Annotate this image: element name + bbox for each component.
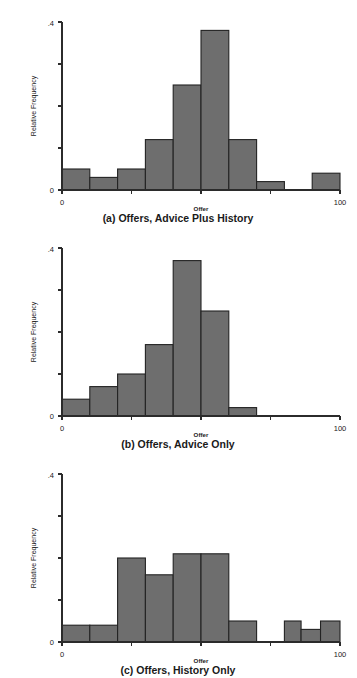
chart-a-plot-area — [58, 22, 340, 194]
histogram-bar — [62, 625, 90, 642]
histogram-bar — [201, 311, 229, 416]
histogram-bar — [90, 177, 118, 190]
chart-b-y-ticks — [58, 248, 62, 416]
chart-c-x-axis-title: Offer — [194, 657, 209, 664]
chart-b-x-tick-label-min: 0 — [60, 424, 64, 433]
chart-a-x-axis-title: Offer — [194, 205, 209, 212]
chart-b-caption: (b) Offers, Advice Only — [121, 438, 235, 450]
chart-a-y-axis-title: Relative Frequency — [30, 75, 38, 136]
histogram-bar — [312, 173, 340, 190]
chart-b-y-axis-title: Relative Frequency — [30, 301, 38, 362]
histogram-bar — [229, 621, 257, 642]
histogram-bar — [229, 408, 257, 416]
chart-c-y-tick-label-max: .4 — [48, 471, 54, 480]
histogram-bar — [201, 30, 229, 190]
chart-c-x-ticks — [62, 642, 340, 646]
histogram-bar — [201, 554, 229, 642]
chart-a-y-tick-label-max: .4 — [48, 19, 54, 28]
histogram-bar — [173, 261, 201, 416]
histogram-bar — [118, 374, 146, 416]
chart-a-bars — [62, 30, 340, 190]
chart-panel-a: 0 .4 0 100 Offer Relative Frequency (a) … — [0, 0, 357, 226]
chart-panel-b: 0 .4 0 100 Offer Relative Frequency (b) … — [0, 226, 357, 452]
chart-a-x-tick-label-max: 100 — [334, 198, 347, 207]
histogram-bar — [118, 169, 146, 190]
chart-c-x-tick-label-max: 100 — [334, 650, 347, 659]
chart-c-y-ticks — [58, 474, 62, 642]
histogram-bar — [257, 182, 285, 190]
chart-b-svg: 0 .4 0 100 Offer Relative Frequency (b) … — [0, 226, 357, 452]
histogram-bar — [90, 625, 118, 642]
chart-c-caption: (c) Offers, History Only — [121, 664, 236, 676]
chart-c-y-tick-label-min: 0 — [50, 638, 54, 647]
histogram-bar — [173, 554, 201, 642]
histogram-bar — [284, 621, 301, 642]
chart-b-y-tick-label-max: .4 — [48, 245, 54, 254]
histogram-bar — [301, 629, 320, 642]
histogram-bar — [321, 621, 340, 642]
chart-a-caption: (a) Offers, Advice Plus History — [103, 212, 254, 224]
chart-b-y-tick-label-min: 0 — [50, 412, 54, 421]
chart-a-y-ticks — [58, 22, 62, 190]
histogram-bar — [173, 85, 201, 190]
histogram-bar — [90, 387, 118, 416]
histogram-bar — [145, 140, 173, 190]
chart-c-y-axis-title: Relative Frequency — [30, 527, 38, 588]
histogram-bar — [118, 558, 146, 642]
chart-b-bars — [62, 261, 257, 416]
histogram-bar — [145, 575, 173, 642]
histogram-bar — [229, 140, 257, 190]
chart-c-x-tick-label-min: 0 — [60, 650, 64, 659]
chart-c-bars — [62, 554, 340, 642]
chart-c-plot-area — [58, 474, 340, 646]
chart-a-y-tick-label-min: 0 — [50, 186, 54, 195]
chart-c-svg: 0 .4 0 100 Offer Relative Frequency (c) … — [0, 452, 357, 678]
chart-panel-c: 0 .4 0 100 Offer Relative Frequency (c) … — [0, 452, 357, 678]
histogram-figure: 0 .4 0 100 Offer Relative Frequency (a) … — [0, 0, 357, 678]
chart-b-x-axis-title: Offer — [194, 431, 209, 438]
histogram-bar — [62, 169, 90, 190]
chart-b-x-tick-label-max: 100 — [334, 424, 347, 433]
histogram-bar — [62, 399, 90, 416]
chart-a-svg: 0 .4 0 100 Offer Relative Frequency (a) … — [0, 0, 357, 226]
chart-b-x-ticks — [62, 416, 340, 420]
histogram-bar — [145, 345, 173, 416]
chart-a-x-tick-label-min: 0 — [60, 198, 64, 207]
chart-b-plot-area — [58, 248, 340, 420]
chart-a-x-ticks — [62, 190, 340, 194]
